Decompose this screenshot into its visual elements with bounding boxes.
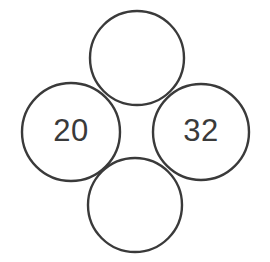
node-bottom-circle[interactable] <box>88 158 182 252</box>
node-top[interactable] <box>90 11 184 105</box>
node-bottom[interactable] <box>88 158 182 252</box>
node-left[interactable]: 20 <box>22 83 120 181</box>
circle-puzzle-figure: 20 32 <box>0 0 270 262</box>
node-right[interactable]: 32 <box>153 84 249 180</box>
node-top-circle[interactable] <box>90 11 184 105</box>
puzzle-diagram-svg: 20 32 <box>0 0 270 262</box>
node-left-label: 20 <box>53 113 88 148</box>
node-right-label: 32 <box>183 113 218 148</box>
